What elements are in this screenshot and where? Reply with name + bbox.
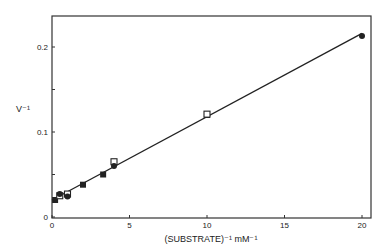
plot-border xyxy=(52,16,371,218)
x-axis-label: (SUBSTRATE)⁻¹ mM⁻¹ xyxy=(165,234,258,244)
data-point-open-square xyxy=(204,111,210,117)
x-axis-ticks: 05101520 xyxy=(50,215,367,230)
data-point-filled-square xyxy=(100,172,106,178)
y-tick-label: 0.1 xyxy=(37,128,49,137)
data-points xyxy=(52,33,365,203)
data-point-filled-square xyxy=(80,182,86,188)
data-point-filled-circle xyxy=(111,163,117,169)
data-point-filled-circle xyxy=(57,191,63,197)
lineweaver-burk-plot: 05101520 00.10.2 (SUBSTRATE)⁻¹ mM⁻¹ V⁻¹ xyxy=(0,0,387,249)
x-tick-label: 5 xyxy=(127,221,132,230)
data-point-filled-circle xyxy=(359,33,365,39)
data-point-filled-circle xyxy=(65,194,71,200)
plot-frame xyxy=(52,16,371,218)
y-axis-label: V⁻¹ xyxy=(16,104,30,114)
y-tick-label: 0 xyxy=(44,213,49,222)
x-tick-label: 20 xyxy=(358,221,367,230)
x-tick-label: 10 xyxy=(203,221,212,230)
y-tick-label: 0.2 xyxy=(37,43,49,52)
x-tick-label: 0 xyxy=(50,221,55,230)
x-tick-label: 15 xyxy=(280,221,289,230)
